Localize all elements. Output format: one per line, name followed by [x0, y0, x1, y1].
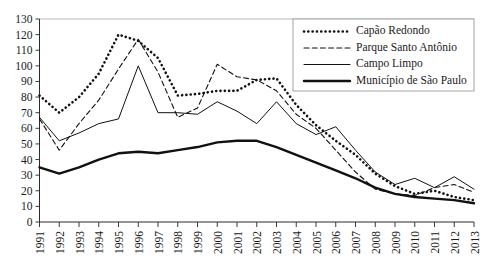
x-tick-label: 2009: [390, 231, 402, 254]
x-tick-label: 2007: [350, 231, 362, 254]
x-tick-label: 2003: [271, 231, 283, 254]
y-tick-label: 30: [21, 169, 33, 181]
legend-label: Capão Redondo: [356, 24, 430, 37]
line-chart: 0102030405060708090100110120130 19911992…: [0, 0, 480, 264]
x-tick-label: 2008: [370, 231, 382, 254]
y-tick-label: 50: [21, 138, 33, 150]
y-tick-label: 100: [15, 60, 33, 72]
y-tick-label: 60: [21, 122, 33, 134]
y-tick-label: 110: [16, 44, 33, 56]
x-tick-label: 2006: [330, 231, 342, 254]
x-tick-label: 1993: [74, 231, 86, 254]
y-tick-label: 130: [15, 13, 33, 25]
y-tick-label: 0: [27, 216, 33, 228]
x-tick-label: 1995: [113, 231, 125, 254]
y-tick-label: 20: [21, 185, 33, 197]
legend-label: Campo Limpo: [356, 57, 423, 70]
x-tick-label: 1998: [172, 231, 184, 254]
y-tick-label: 80: [21, 91, 33, 103]
y-tick-label: 10: [21, 200, 33, 212]
legend-label: Parque Santo Antônio: [356, 41, 457, 54]
x-tick-label: 2011: [429, 231, 441, 254]
x-tick-label: 2002: [251, 231, 263, 254]
x-tick-label: 1991: [34, 231, 46, 254]
x-tick-label: 2001: [232, 231, 244, 254]
x-tick-label: 1994: [93, 231, 105, 254]
x-tick-label: 1996: [133, 231, 145, 254]
x-tick-label: 2013: [469, 231, 480, 254]
x-axis: 1991199219931994199519961997199819992000…: [34, 222, 480, 254]
chart-legend: Capão RedondoParque Santo AntônioCampo L…: [293, 19, 474, 91]
x-tick-label: 2004: [291, 231, 303, 254]
y-tick-label: 70: [21, 107, 33, 119]
series-line-munic-pio-de-s-o-paulo: [40, 141, 475, 203]
x-tick-label: 2010: [409, 231, 421, 254]
y-tick-label: 40: [21, 154, 33, 166]
y-tick-label: 90: [21, 75, 33, 87]
y-tick-label: 120: [15, 29, 33, 41]
x-tick-label: 2005: [311, 231, 323, 254]
x-tick-label: 2000: [212, 231, 224, 254]
x-tick-label: 2012: [449, 231, 461, 254]
x-tick-label: 1997: [153, 231, 165, 254]
chart-canvas: 0102030405060708090100110120130 19911992…: [0, 0, 480, 264]
x-tick-label: 1999: [192, 231, 204, 254]
x-tick-label: 1992: [54, 231, 66, 254]
legend-label: Município de São Paulo: [356, 74, 467, 87]
y-axis: 0102030405060708090100110120130: [15, 13, 39, 228]
